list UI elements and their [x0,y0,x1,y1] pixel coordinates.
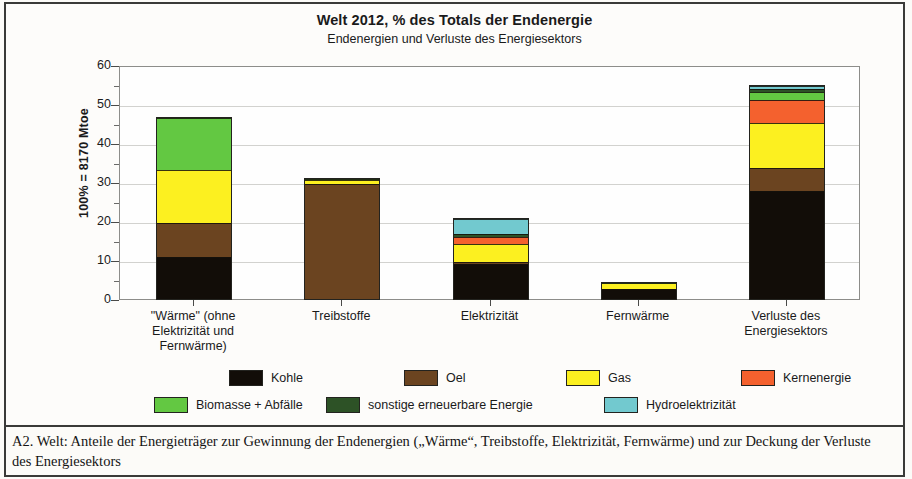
bar-segment-oel [305,184,379,299]
bar-segment-biomasse-abf-lle [305,179,379,181]
bar-segment-oel [454,262,528,265]
legend-swatch-icon [741,370,775,386]
y-tick-major-20 [111,222,119,223]
legend-item-gas: Gas [566,368,631,388]
y-tick-major-50 [111,105,119,106]
bar-segment-hydroelektrizit-t [750,86,824,89]
legend-label: sonstige erneuerbare Energie [368,398,533,412]
plot-area [119,66,860,300]
chart-figure: Welt 2012, % des Totals der Endenergie E… [6,4,903,424]
bar-segment-oel [750,168,824,191]
legend-swatch-icon [229,370,263,386]
y-tick-label-20: 20 [81,214,111,228]
chart-title: Welt 2012, % des Totals der Endenergie [6,12,903,28]
bar-segment-kohle [454,264,528,299]
bar-segment-oel [157,223,231,257]
bar-segment-biomasse-abf-lle [602,283,676,284]
y-tick-major-10 [111,261,119,262]
legend-label: Biomasse + Abfälle [196,398,303,412]
legend-item-hydroelektrizit-t: Hydroelektrizität [604,395,736,415]
scanned-page: Welt 2012, % des Totals der Endenergie E… [0,0,912,479]
legend-item-kohle: Kohle [229,368,303,388]
y-axis-label: 100% = 8170 Mtoe [77,63,91,263]
x-category-label-4: Fernwärme [558,309,718,324]
y-tick-major-30 [111,183,119,184]
bar-segment-biomasse-abf-lle [750,92,824,100]
y-tick-label-10: 10 [81,253,111,267]
legend-label: Kohle [271,371,303,385]
legend-row-1: KohleOelGasKernenergie [6,368,903,388]
x-tick-5 [786,300,787,306]
y-tick-label-40: 40 [81,136,111,150]
y-tick-label-30: 30 [81,175,111,189]
x-category-line: Verluste des [706,309,866,324]
caption-separator [4,425,905,427]
y-tick-label-0: 0 [81,292,111,306]
legend-item-sonstige-erneuerbare-energie: sonstige erneuerbare Energie [326,395,533,415]
y-tick-label-50: 50 [81,97,111,111]
legend-swatch-icon [404,370,438,386]
page-border-right [903,2,905,477]
legend-swatch-icon [154,397,188,413]
x-category-line: Fernwärme [558,309,718,324]
x-tick-3 [490,300,491,306]
x-category-line: Treibstoffe [261,309,421,324]
legend-item-oel: Oel [404,368,465,388]
legend-item-kernenergie: Kernenergie [741,368,851,388]
legend-label: Gas [608,371,631,385]
x-category-label-3: Elektrizität [410,309,570,324]
legend-row-2: Biomasse + Abfällesonstige erneuerbare E… [6,395,903,415]
y-tick-major-40 [111,144,119,145]
x-tick-1 [193,300,194,306]
bar-segment-sonstige-erneuerbare-energie [454,234,528,237]
bar-segment-kohle [157,257,231,299]
y-tick-label-60: 60 [81,58,111,72]
bar-segment-biomasse-abf-lle [157,118,231,170]
legend-swatch-icon [326,397,360,413]
bar-stack-5 [750,86,824,299]
bar-stack-2 [305,179,379,300]
bar-stack-1 [157,118,231,299]
legend-label: Hydroelektrizität [646,398,736,412]
x-category-line: "Wärme" (ohne [113,309,273,324]
y-tick-major-0 [111,300,119,301]
bar-segment-kernenergie [454,237,528,244]
legend-swatch-icon [604,397,638,413]
legend-item-biomasse-abf-lle: Biomasse + Abfälle [154,395,303,415]
bar-segment-kernenergie [750,100,824,123]
bar-segment-gas [157,170,231,223]
legend-label: Kernenergie [783,371,851,385]
x-category-line: Elektrizität [410,309,570,324]
bar-stack-4 [602,283,676,299]
x-category-line: Fernwärme) [113,339,273,354]
bar-segment-gas [454,244,528,262]
bar-segment-gas [602,283,676,289]
bar-segment-kohle [750,191,824,299]
chart-subtitle: Endenergien und Verluste des Energiesekt… [6,32,903,46]
bar-segment-hydroelektrizit-t [454,219,528,234]
y-tick-major-60 [111,66,119,67]
bar-segment-gas [305,180,379,183]
x-category-line: Elektrizität und [113,324,273,339]
x-category-label-1: "Wärme" (ohneElektrizität undFernwärme) [113,309,273,354]
x-tick-2 [341,300,342,306]
gridline-50 [120,106,859,107]
x-tick-4 [638,300,639,306]
x-category-label-2: Treibstoffe [261,309,421,324]
legend-label: Oel [446,371,465,385]
page-border-bottom [4,475,905,477]
bar-segment-sonstige-erneuerbare-energie [750,89,824,92]
x-category-line: Energiesektors [706,324,866,339]
bar-segment-gas [750,123,824,168]
figure-caption: A2. Welt: Anteile der Energieträger zur … [12,431,892,471]
bar-stack-3 [454,219,528,299]
legend-swatch-icon [566,370,600,386]
bar-segment-kohle [602,289,676,299]
x-category-label-5: Verluste desEnergiesektors [706,309,866,339]
